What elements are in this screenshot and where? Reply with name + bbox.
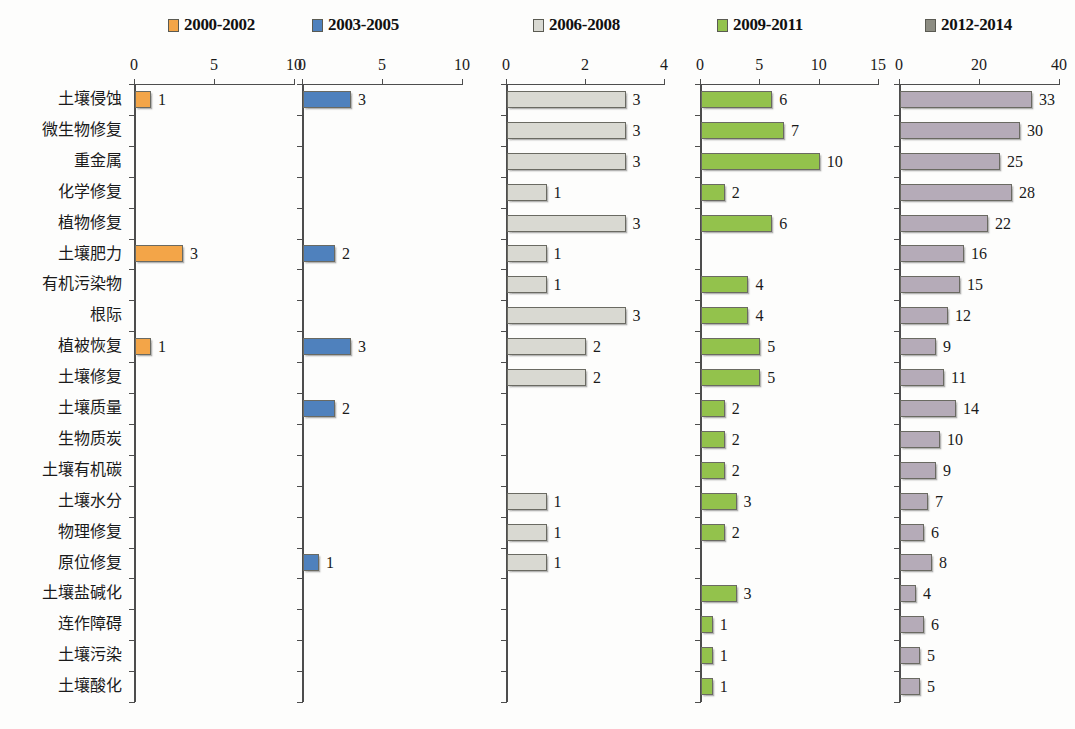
category-label-10: 土壤质量 [58, 393, 122, 424]
value-tick [585, 79, 586, 85]
bar [507, 122, 626, 139]
bar-value-label: 2 [593, 338, 601, 355]
category-tick [501, 393, 507, 394]
category-label-6: 有机污染物 [42, 269, 122, 300]
category-tick [894, 362, 900, 363]
value-tick-label: 40 [1051, 56, 1067, 74]
bar [900, 400, 956, 417]
bar [701, 647, 713, 664]
category-tick [297, 517, 303, 518]
value-tick-label: 4 [660, 56, 668, 74]
bar [701, 307, 748, 324]
category-label-7: 根际 [90, 300, 122, 331]
bar-value-label: 1 [158, 91, 166, 108]
legend-swatch-icon [168, 19, 179, 32]
category-tick [695, 609, 701, 610]
bar [900, 215, 988, 232]
category-tick [129, 671, 135, 672]
bar-value-label: 2 [342, 245, 350, 262]
bar-value-label: 3 [633, 215, 641, 232]
bar [900, 554, 932, 571]
bar [507, 338, 586, 355]
bar [900, 184, 1012, 201]
category-tick [695, 393, 701, 394]
category-label-3: 化学修复 [58, 177, 122, 208]
category-tick [894, 208, 900, 209]
category-label-15: 原位修复 [58, 548, 122, 579]
value-tick [294, 79, 295, 85]
category-tick [501, 269, 507, 270]
category-tick [297, 146, 303, 147]
bar-value-label: 5 [927, 647, 935, 664]
panel-category-axis [134, 84, 136, 702]
bar-value-label: 1 [554, 184, 562, 201]
value-tick-label: 0 [895, 56, 903, 74]
bar-value-label: 33 [1039, 91, 1055, 108]
bar [900, 462, 936, 479]
bar-value-label: 1 [554, 554, 562, 571]
bar-value-label: 4 [923, 585, 931, 602]
bar-value-label: 14 [963, 400, 979, 417]
category-tick [894, 640, 900, 641]
bar-value-label: 3 [358, 338, 366, 355]
bar [507, 524, 547, 541]
category-tick [297, 548, 303, 549]
bar-value-label: 3 [358, 91, 366, 108]
bar [900, 647, 920, 664]
value-tick [664, 79, 665, 85]
category-tick [501, 177, 507, 178]
bar [701, 215, 772, 232]
bar-value-label: 22 [995, 215, 1011, 232]
bar [507, 554, 547, 571]
bar [507, 91, 626, 108]
category-tick [501, 517, 507, 518]
legend-swatch-icon [312, 19, 323, 32]
panel-2003-2005: 051032321 [302, 56, 532, 706]
bar [303, 400, 335, 417]
legend-item-2009-2011: 2009-2011 [717, 15, 803, 35]
value-tick [506, 79, 507, 85]
bar [303, 91, 351, 108]
bar [701, 524, 725, 541]
bar [900, 524, 924, 541]
bar [507, 215, 626, 232]
multi-panel-bar-chart: 2000-20022003-20052006-20082009-20112012… [0, 0, 1075, 729]
category-tick [129, 424, 135, 425]
category-tick [501, 548, 507, 549]
bar-value-label: 9 [943, 338, 951, 355]
category-tick [297, 393, 303, 394]
bar [701, 462, 725, 479]
bar-value-label: 1 [554, 245, 562, 262]
bar [900, 91, 1032, 108]
bar [507, 184, 547, 201]
bar [701, 369, 760, 386]
category-tick [297, 239, 303, 240]
category-tick [894, 486, 900, 487]
bar-value-label: 5 [767, 338, 775, 355]
value-tick-label: 5 [755, 56, 763, 74]
bar-value-label: 1 [720, 616, 728, 633]
value-tick-label: 0 [696, 56, 704, 74]
panel-category-axis [302, 84, 304, 702]
value-tick [979, 79, 980, 85]
category-tick [894, 115, 900, 116]
value-tick [462, 79, 463, 85]
category-label-2: 重金属 [74, 146, 122, 177]
category-tick [695, 115, 701, 116]
bar-value-label: 3 [633, 91, 641, 108]
legend-item-label: 2000-2002 [184, 15, 255, 35]
category-label-19: 土壤酸化 [58, 671, 122, 702]
legend-item-2006-2008: 2006-2008 [533, 15, 620, 35]
bar-value-label: 3 [190, 245, 198, 262]
category-tick [695, 486, 701, 487]
bar [900, 431, 940, 448]
category-label-12: 土壤有机碳 [42, 455, 122, 486]
category-tick [894, 177, 900, 178]
bar [701, 153, 820, 170]
category-label-11: 生物质炭 [58, 424, 122, 455]
category-tick [695, 208, 701, 209]
category-label-1: 微生物修复 [42, 115, 122, 146]
bar [303, 554, 319, 571]
category-tick [297, 578, 303, 579]
bar-value-label: 3 [744, 585, 752, 602]
